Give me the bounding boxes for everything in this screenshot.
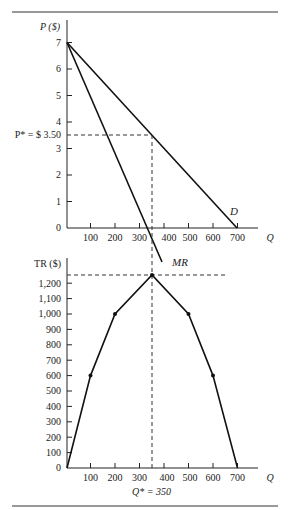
price-chart: P ($) 0 1 2 3 4 5 6 7 (15, 20, 275, 268)
q-ticks-top: 100 200 300 400 500 600 700 Q (83, 223, 274, 243)
svg-text:6: 6 (56, 63, 61, 74)
svg-text:600: 600 (206, 232, 221, 243)
svg-text:2: 2 (56, 169, 61, 180)
svg-text:300: 300 (132, 232, 147, 243)
svg-text:200: 200 (108, 472, 123, 483)
svg-text:1,000: 1,000 (39, 308, 62, 319)
svg-text:0: 0 (56, 462, 61, 473)
svg-text:100: 100 (83, 472, 98, 483)
svg-text:200: 200 (46, 432, 61, 443)
pstar-label: P* = $ 3.50 (15, 129, 61, 140)
chart-figure: P ($) 0 1 2 3 4 5 6 7 (0, 0, 288, 510)
svg-text:300: 300 (132, 472, 147, 483)
tr-axis-label: TR ($) (34, 258, 61, 270)
svg-text:4: 4 (56, 116, 61, 127)
svg-text:200: 200 (108, 232, 123, 243)
svg-text:700: 700 (46, 355, 61, 366)
svg-text:7: 7 (56, 37, 61, 48)
svg-text:100: 100 (46, 447, 61, 458)
qstar-label: Q* = 350 (132, 486, 171, 497)
svg-text:400: 400 (160, 472, 175, 483)
svg-text:700: 700 (230, 472, 245, 483)
svg-text:3: 3 (56, 143, 61, 154)
svg-text:Q: Q (266, 472, 274, 483)
svg-text:500: 500 (183, 232, 198, 243)
svg-text:600: 600 (206, 472, 221, 483)
p-axis-label: P ($) (39, 21, 61, 33)
total-revenue-chart: TR ($) 0 100 200 300 400 500 600 700 800 (34, 258, 274, 497)
demand-label: D (229, 205, 238, 217)
q-ticks-bottom: 100 200 300 400 500 600 700 Q (83, 463, 274, 483)
svg-text:600: 600 (46, 370, 61, 381)
svg-text:300: 300 (46, 416, 61, 427)
svg-text:800: 800 (46, 339, 61, 350)
svg-text:5: 5 (56, 90, 61, 101)
svg-text:1: 1 (56, 196, 61, 207)
svg-text:Q: Q (266, 232, 274, 243)
svg-text:0: 0 (56, 222, 61, 233)
svg-text:700: 700 (230, 232, 245, 243)
mr-label: MR (171, 256, 188, 268)
svg-text:400: 400 (162, 232, 177, 243)
svg-text:1,100: 1,100 (39, 293, 62, 304)
svg-text:900: 900 (46, 324, 61, 335)
mr-curve (67, 43, 162, 263)
svg-text:500: 500 (183, 472, 198, 483)
svg-text:400: 400 (46, 401, 61, 412)
svg-text:100: 100 (83, 232, 98, 243)
svg-text:1,200: 1,200 (39, 278, 62, 289)
svg-text:500: 500 (46, 385, 61, 396)
